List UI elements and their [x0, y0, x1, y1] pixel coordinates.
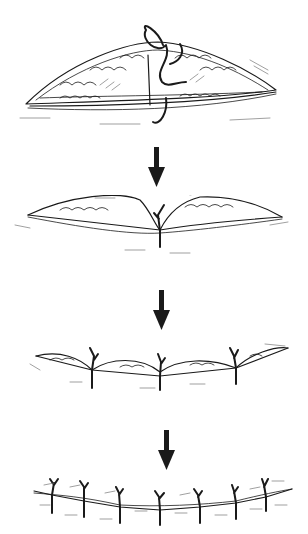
suture-knots — [50, 479, 268, 525]
hatching — [20, 60, 270, 124]
open-wound-with-needle-illustration — [0, 0, 308, 135]
needle-icon — [148, 55, 150, 105]
step-1-open-wound: Step 1: Needle and suture passed through… — [0, 0, 308, 135]
arrow-down-icon — [0, 288, 308, 333]
step-3-three-sutures: Step 3: Additional sutures placed bisect… — [0, 340, 308, 412]
closed-wound-illustration — [0, 475, 308, 534]
suture-thread — [145, 26, 186, 123]
step-4-closed-wound: Step 4: Wound fully closed with 7 interr… — [0, 475, 308, 534]
arrow-down-icon — [0, 145, 308, 190]
arrow-down-icon — [0, 428, 308, 473]
first-suture-illustration — [0, 195, 308, 275]
step-2-first-suture: Step 2: First central suture tied, appro… — [0, 195, 308, 275]
three-sutures-illustration — [0, 340, 308, 412]
